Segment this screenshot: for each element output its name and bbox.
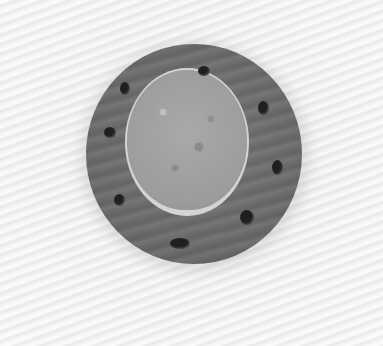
black-dot (240, 210, 254, 225)
black-dot (104, 127, 116, 138)
black-dot (114, 194, 125, 206)
black-dot (170, 238, 190, 249)
black-dot (272, 160, 283, 175)
black-dot (258, 101, 269, 115)
black-dot (198, 66, 210, 76)
black-dot (120, 82, 130, 95)
sponge-cake (127, 70, 247, 210)
